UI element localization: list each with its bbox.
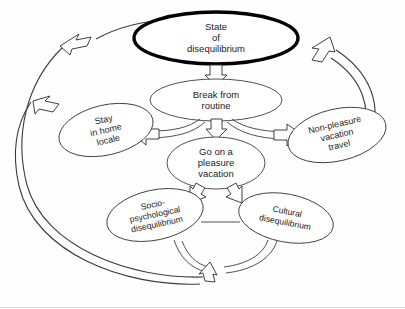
diagram-canvas: State of disequilibrium Break from routi… bbox=[0, 0, 405, 309]
state-of-disequilibrium-line-1: State bbox=[205, 21, 227, 32]
node-state-of-disequilibrium[interactable]: State of disequilibrium bbox=[134, 12, 298, 64]
bottom-converge-arrowhead bbox=[199, 262, 217, 282]
break-from-routine-line-1: Break from bbox=[193, 89, 240, 100]
bottom-converge-left-outer bbox=[174, 240, 206, 272]
state-of-disequilibrium-line-3: disequilibrium bbox=[187, 43, 245, 54]
bottom-converge-right-outer bbox=[226, 241, 277, 273]
bottom-converge-right-inner bbox=[224, 240, 268, 267]
connection-bottom-converge bbox=[174, 240, 277, 282]
break-from-routine-line-2: routine bbox=[201, 100, 230, 111]
node-stay-in-home-locale[interactable]: Stay in home locale bbox=[54, 95, 159, 165]
node-cultural-disequilibrium[interactable]: Cultural disequilibrium bbox=[234, 185, 337, 250]
break-branch-right-lower bbox=[227, 122, 281, 139]
flow-diagram: State of disequilibrium Break from routi… bbox=[0, 0, 405, 309]
outer-loop-arrowhead-to-stay-home bbox=[33, 96, 59, 114]
node-break-from-routine[interactable]: Break from routine bbox=[150, 79, 282, 121]
bottom-converge-left-inner bbox=[182, 241, 209, 267]
node-go-on-a-pleasure-vacation[interactable]: Go on a pleasure vacation bbox=[167, 137, 265, 189]
go-on-a-pleasure-vacation-line-1: Go on a bbox=[199, 146, 234, 157]
go-on-a-pleasure-vacation-line-3: vacation bbox=[198, 168, 233, 179]
state-of-disequilibrium-line-2: of bbox=[212, 32, 220, 43]
outer-loop-arrowhead-to-state bbox=[60, 34, 91, 55]
go-on-a-pleasure-vacation-line-2: pleasure bbox=[198, 157, 234, 168]
break-branch-left-lower bbox=[153, 122, 205, 138]
